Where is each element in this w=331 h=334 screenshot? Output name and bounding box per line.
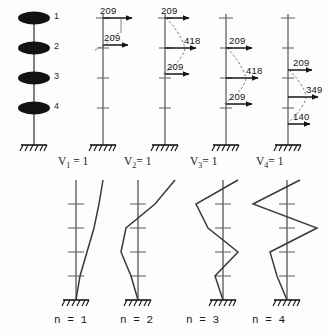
mass-label-1: 1 xyxy=(54,11,59,21)
caption-mode-number-2: n = 2 xyxy=(120,314,153,326)
caption-base-shear-3: V3= 1 xyxy=(190,155,217,170)
shape-panel-mode-1 xyxy=(62,180,103,306)
force-value-p4-f2: 349 xyxy=(306,84,322,95)
force-value-p3-f1: 209 xyxy=(229,35,245,46)
force-value-p2-f3: 209 xyxy=(167,61,183,72)
shape-panel-mode-4 xyxy=(253,180,317,306)
caption-mode-number-4: n = 4 xyxy=(252,314,285,326)
force-panel-mode-4 xyxy=(274,14,318,151)
force-value-p2-f2: 418 xyxy=(184,35,200,46)
mass-model-column xyxy=(18,12,50,152)
figure-canvas: 1 2 3 4 209 209 209 418 209 209 418 209 … xyxy=(0,0,331,334)
mass-label-3: 3 xyxy=(54,71,59,81)
force-value-p1-f2: 209 xyxy=(104,32,120,43)
mass-label-2: 2 xyxy=(54,41,59,51)
force-value-p3-f2: 418 xyxy=(246,65,262,76)
caption-base-shear-1: V1 = 1 xyxy=(58,155,88,170)
force-value-p4-f3: 140 xyxy=(293,111,309,122)
caption-mode-number-3: n = 3 xyxy=(186,314,219,326)
shape-panel-mode-2 xyxy=(121,180,175,306)
mass-label-4: 4 xyxy=(54,101,59,111)
caption-base-shear-4: V4= 1 xyxy=(256,155,283,170)
force-value-p2-f1: 209 xyxy=(161,5,177,16)
shape-panel-mode-3 xyxy=(196,180,238,306)
caption-base-shear-2: V2= 1 xyxy=(124,155,151,170)
force-value-p4-f1: 209 xyxy=(293,57,309,68)
force-value-p1-f1: 209 xyxy=(100,5,116,16)
caption-mode-number-1: n = 1 xyxy=(54,314,87,326)
force-value-p3-f3: 209 xyxy=(229,91,245,102)
